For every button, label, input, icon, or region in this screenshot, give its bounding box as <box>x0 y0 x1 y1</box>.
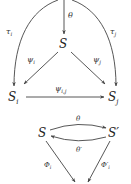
theta-arc-label: θ <box>76 115 81 123</box>
node-s-bottom: S <box>38 126 46 140</box>
phi-i-arrow <box>46 141 75 182</box>
node-s-prime: S′ <box>108 126 119 140</box>
tau-j-label: τj <box>110 27 116 38</box>
theta-label: θ <box>68 11 73 20</box>
bottom-diagram: S S′ θ θ′ Φi Φ′i <box>38 115 119 182</box>
phi-i-label: Φi <box>44 161 52 170</box>
psi-j-label: ψj <box>93 55 101 66</box>
theta-prime-label: θ′ <box>76 146 82 154</box>
top-diagram: θ τi τj S ψi ψj Si Sj ψi,j <box>6 0 119 106</box>
theta-prime-arc-arrow <box>51 136 106 141</box>
phi-prime-i-label: Φ′i <box>101 161 110 170</box>
psi-j-arrow <box>71 52 105 84</box>
node-s: S <box>59 37 67 51</box>
theta-arc-arrow <box>50 124 106 130</box>
node-s-i: Si <box>8 90 18 106</box>
node-s-j: Sj <box>108 90 119 106</box>
commutative-diagrams: θ τi τj S ψi ψj Si Sj ψi,j S S′ θ θ′ <box>0 0 131 184</box>
psi-i-label: ψi <box>27 55 35 65</box>
tau-i-label: τi <box>6 27 12 37</box>
psi-ij-label: ψi,j <box>55 84 67 95</box>
